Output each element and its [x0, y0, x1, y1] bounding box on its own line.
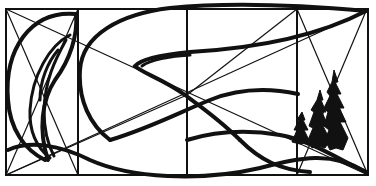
composition-drawing [0, 0, 376, 186]
tree-cluster [292, 70, 348, 150]
tree-small [292, 112, 310, 144]
diagram-canvas [0, 0, 376, 186]
